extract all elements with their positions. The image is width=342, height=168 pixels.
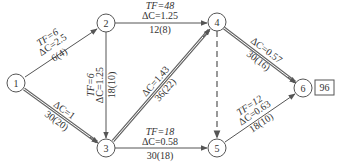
node-5: 5 [208, 139, 226, 157]
node-1: 1 [7, 74, 25, 92]
edge-2-3-duration: 18(10) [106, 72, 118, 99]
edge-3-4: ΔC=1.43 36(22) [113, 29, 210, 141]
node-2: 2 [97, 14, 115, 32]
node-4: 4 [208, 13, 226, 31]
edge-1-2: TF=6 ΔC=2.5 6(4) [25, 24, 97, 77]
edge-5-6: TF=12 ΔC=0.63 18(10) [225, 90, 295, 142]
node-5-label: 5 [215, 143, 220, 154]
node-2-label: 2 [104, 18, 109, 29]
edge-2-3: TF=6 ΔC=1.25 18(10) [85, 32, 118, 138]
node-3: 3 [97, 139, 115, 157]
edge-2-4-dc: ΔC=1.25 [142, 10, 178, 21]
edge-2-4-duration: 12(8) [149, 24, 171, 36]
edge-4-6: ΔC=0.57 30(16) [224, 28, 296, 83]
node-6: 6 [294, 79, 312, 97]
network-diagram: TF=6 ΔC=2.5 6(4) ΔC=1 30(20) TF=6 ΔC=1.2… [0, 0, 342, 168]
edge-3-5: TF=18 ΔC=0.58 30(18) [115, 126, 207, 162]
edge-2-4: TF=48 ΔC=1.25 12(8) [115, 0, 207, 36]
node-4-label: 4 [215, 17, 220, 28]
node-3-label: 3 [104, 143, 109, 154]
edge-3-5-dc: ΔC=0.58 [142, 136, 178, 147]
edge-2-3-dc: ΔC=1.25 [94, 67, 105, 103]
node-1-label: 1 [14, 78, 19, 89]
edge-3-5-duration: 30(18) [147, 150, 174, 162]
total-duration-box: 96 [315, 80, 334, 95]
node-6-label: 6 [301, 83, 306, 94]
total-duration-value: 96 [320, 82, 330, 93]
